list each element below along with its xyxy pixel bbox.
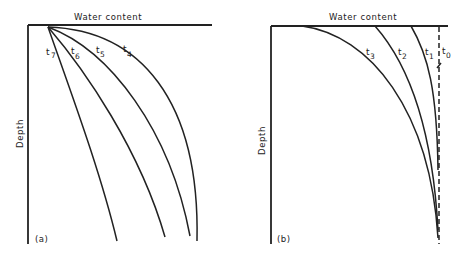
panel-b-y-axis-label: Depth xyxy=(257,126,267,155)
panel-a-label: (a) xyxy=(35,234,48,244)
panel-a: Water content Depth (a) t 7 t 6 t 5 xyxy=(15,12,212,244)
label-t2: t 2 xyxy=(398,47,407,61)
svg-text:t: t xyxy=(46,47,50,57)
label-t7: t 7 xyxy=(46,47,56,60)
svg-text:6: 6 xyxy=(75,52,80,61)
svg-text:5: 5 xyxy=(100,50,105,59)
svg-text:1: 1 xyxy=(429,52,434,61)
label-t6: t 6 xyxy=(71,46,80,61)
svg-text:4: 4 xyxy=(127,50,132,59)
label-t1: t 1 xyxy=(425,47,434,61)
svg-text:0: 0 xyxy=(446,51,451,60)
water-content-depth-figure: Water content Depth (a) t 7 t 6 t 5 xyxy=(0,0,464,256)
label-t4: t 4 xyxy=(123,44,132,59)
panel-b: Water content Depth (b) t 3 t 2 t xyxy=(257,12,451,244)
svg-text:3: 3 xyxy=(370,52,375,61)
curve-t6 xyxy=(48,27,165,237)
curve-t7 xyxy=(48,27,117,241)
panel-b-label: (b) xyxy=(277,234,291,244)
svg-text:7: 7 xyxy=(51,51,56,60)
curve-t5 xyxy=(48,27,190,236)
panel-a-y-axis-label: Depth xyxy=(15,119,25,148)
panel-a-x-axis-label: Water content xyxy=(74,12,142,22)
panel-b-x-axis-label: Water content xyxy=(329,12,397,22)
label-t0: t 0 xyxy=(442,46,451,60)
curve-t4 xyxy=(48,27,197,241)
svg-text:2: 2 xyxy=(402,52,407,61)
